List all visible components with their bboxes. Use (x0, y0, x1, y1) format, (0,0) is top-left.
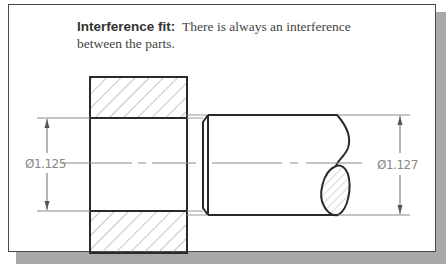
arrow-down-icon (45, 201, 50, 210)
hub-part (90, 77, 187, 253)
arrow-up-icon (45, 119, 50, 128)
hub-hatch-bottom (90, 211, 187, 253)
arrow-down-icon (398, 205, 403, 214)
hole-diameter-label: Ø1.125 (25, 157, 66, 171)
shaft-diameter-dimension: Ø1.127 (338, 115, 418, 215)
arrow-up-icon (398, 116, 403, 125)
hub-hatch-top (90, 77, 187, 118)
shaft-part (203, 115, 350, 215)
shaft-diameter-label: Ø1.127 (377, 158, 418, 172)
hole-diameter-dimension: Ø1.125 (25, 118, 90, 211)
interference-fit-drawing: Ø1.125 Ø1.127 (0, 0, 446, 277)
shaft-top-and-break (208, 115, 349, 166)
